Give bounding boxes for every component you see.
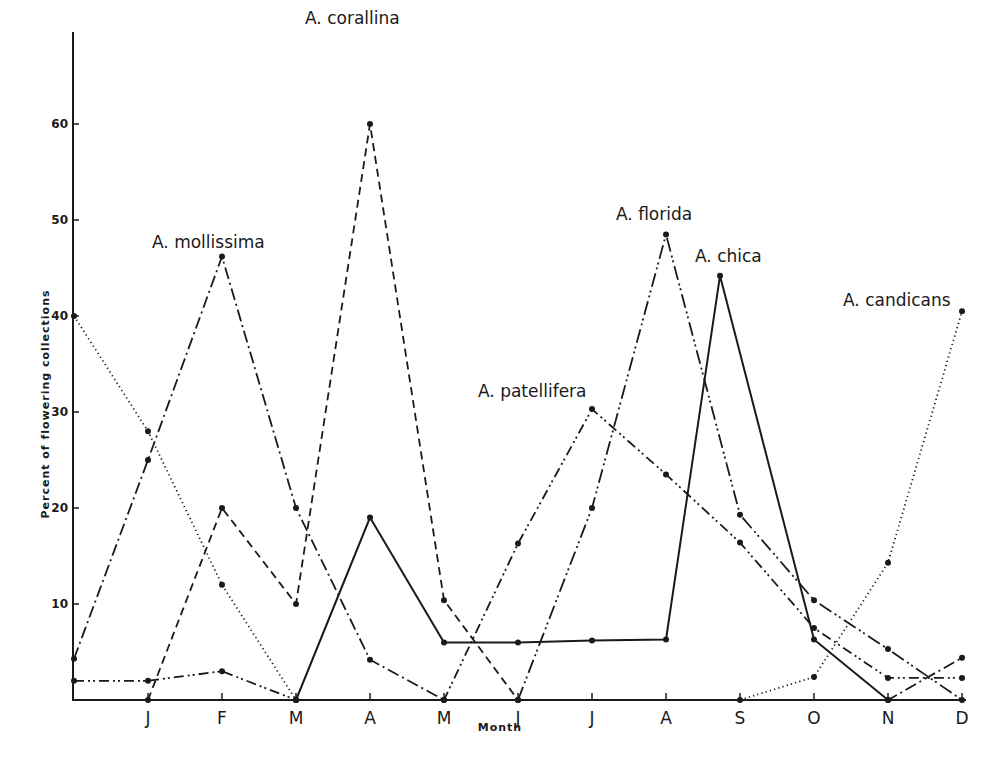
data-point — [663, 471, 669, 477]
data-point — [811, 597, 817, 603]
label-corallina: A. corallina — [305, 8, 400, 28]
data-point — [367, 515, 373, 521]
month-label: F — [217, 708, 227, 728]
data-point — [959, 655, 965, 661]
y-tick-label: 30 — [51, 405, 68, 419]
data-point — [293, 505, 299, 511]
x-ticks: JFMAMJJASOND — [144, 693, 968, 728]
month-label: J — [144, 708, 150, 728]
data-point — [219, 253, 225, 259]
y-tick-label: 50 — [51, 213, 68, 227]
data-point — [959, 697, 965, 703]
label-chica: A. chica — [695, 246, 762, 266]
series-line — [74, 256, 962, 700]
x-axis-title: Month — [478, 721, 522, 734]
data-point — [515, 639, 521, 645]
data-point — [589, 637, 595, 643]
series-patellifera — [71, 406, 965, 703]
y-tick-label: 20 — [51, 501, 68, 515]
data-point — [441, 697, 447, 703]
data-point — [589, 406, 595, 412]
month-label: S — [735, 708, 746, 728]
label-florida: A. florida — [616, 204, 692, 224]
data-point — [663, 637, 669, 643]
y-tick-label: 60 — [51, 117, 68, 131]
data-point — [219, 505, 225, 511]
data-point — [145, 678, 151, 684]
y-ticks: 102030405060 — [51, 117, 79, 611]
data-point — [71, 656, 77, 662]
y-tick-label: 40 — [51, 309, 68, 323]
data-point — [737, 540, 743, 546]
label-patellifera: A. patellifera — [478, 381, 587, 401]
data-point — [737, 512, 743, 518]
data-point — [367, 657, 373, 663]
data-point — [219, 582, 225, 588]
series-labels: A. mollissima A. corallina A. candicans … — [152, 8, 951, 401]
data-point — [441, 597, 447, 603]
data-point — [293, 697, 299, 703]
data-point — [811, 674, 817, 680]
data-point — [589, 505, 595, 511]
data-point — [717, 273, 723, 279]
month-label: O — [807, 708, 820, 728]
y-tick-label: 10 — [51, 597, 68, 611]
data-point — [663, 231, 669, 237]
data-point — [515, 697, 521, 703]
series-mollissima — [71, 253, 965, 703]
data-point — [959, 308, 965, 314]
data-point — [885, 675, 891, 681]
label-candicans: A. candicans — [843, 290, 951, 310]
series-line — [148, 124, 518, 700]
chart-canvas: 102030405060 JFMAMJJASOND Month Percent … — [0, 0, 1002, 762]
data-point — [515, 541, 521, 547]
data-point — [885, 560, 891, 566]
data-point — [145, 457, 151, 463]
data-point — [367, 121, 373, 127]
data-point — [885, 646, 891, 652]
series-chica — [293, 273, 891, 703]
month-label: M — [437, 708, 452, 728]
data-point — [71, 313, 77, 319]
month-label: J — [588, 708, 594, 728]
data-point — [145, 697, 151, 703]
month-label: N — [882, 708, 895, 728]
series-corallina — [145, 121, 521, 703]
label-mollissima: A. mollissima — [152, 232, 265, 252]
data-point — [71, 678, 77, 684]
month-label: D — [955, 708, 968, 728]
data-point — [811, 637, 817, 643]
month-label: M — [289, 708, 304, 728]
data-point — [219, 668, 225, 674]
data-point — [293, 601, 299, 607]
data-point — [885, 697, 891, 703]
data-point — [145, 428, 151, 434]
y-axis-title: Percent of flowering collections — [39, 289, 52, 518]
month-label: A — [660, 708, 672, 728]
data-point — [441, 639, 447, 645]
data-point — [959, 675, 965, 681]
month-label: A — [364, 708, 376, 728]
series-group — [71, 121, 965, 703]
data-point — [737, 697, 743, 703]
series-line — [296, 276, 888, 700]
